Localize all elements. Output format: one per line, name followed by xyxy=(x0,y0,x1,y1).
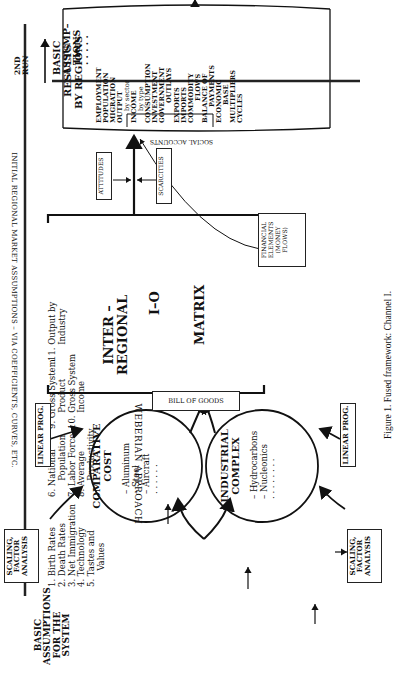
matrix-matrix-label: MATRIX xyxy=(192,285,207,345)
result-item: GOVERNMENT xyxy=(159,11,166,123)
matrix-line: REGIONAL xyxy=(116,295,130,375)
title-line: COST xyxy=(103,416,114,516)
title-line: COMPLEX xyxy=(231,416,242,516)
box-line: FLOWS) xyxy=(282,214,289,266)
label-line: RUN xyxy=(22,55,30,75)
linear-prog-box-left: LINEAR PROG. xyxy=(35,403,51,467)
social-accounts-text: SOCIAL ACCOUNTS xyxy=(150,139,213,146)
social-accounts-label: SOCIAL ACCOUNTS xyxy=(150,139,250,146)
financial-elements-box: FINANCIAL ELEMENTS (MONEY FLOWS) xyxy=(258,213,306,267)
title-line: COMPARATIVE xyxy=(92,416,103,516)
matrix-line: INTER – xyxy=(102,295,116,375)
industry-item: · · · · · · xyxy=(152,443,162,494)
assumption-group-1: 1. Birth Rates 2. Death Rates 3. Net Imm… xyxy=(48,504,107,587)
attitudes-box: ATTITUDES xyxy=(96,152,112,200)
matrix-title: INTER – REGIONAL xyxy=(102,295,129,375)
industrial-complex-title: INDUSTRIAL COMPLEX xyxy=(220,416,241,516)
interregional-io-matrix: INTER – REGIONAL I–O MATRIX xyxy=(52,223,262,385)
linear-prog-box-right: LINEAR PROG. xyxy=(340,403,356,467)
industry-item: – Aircraft xyxy=(141,443,151,494)
figure-caption: Figure 1. Fused framework: Channel I. xyxy=(383,291,393,439)
result-item: ECONOMIC xyxy=(216,11,223,123)
industry-item: – Hydrocarbons xyxy=(249,431,259,499)
title-line: INDUSTRIAL xyxy=(220,416,231,516)
second-run-label: 2ND RUN xyxy=(14,55,30,75)
result-item: COMMODITY xyxy=(188,11,195,123)
comparative-cost-title: COMPARATIVE COST xyxy=(92,416,113,516)
basic-assumptions-title: BASIC ASSUMPTIONS FOR THE SYSTEM xyxy=(34,605,72,665)
market-assumptions-banner: INITIAL REGIONAL MARKET ASSUMPTIONS – VI… xyxy=(10,24,18,596)
bill-of-goods-label: BILL OF GOODS xyxy=(168,398,223,405)
box-line: ANALYSIS xyxy=(21,530,28,582)
assumption-group-2: 6. National Population 7. Labor Force 8.… xyxy=(48,428,97,497)
assumption-item: Values xyxy=(97,504,107,587)
scaling-factor-analysis-box-right: SCALING, FACTOR ANALYSIS xyxy=(347,529,382,583)
scaling-factor-analysis-box-left: SCALING, FACTOR ANALYSIS xyxy=(4,529,39,583)
label-line: · · · · · xyxy=(82,23,92,75)
industry-item: – Steel xyxy=(131,443,141,494)
result-item: CYCLES xyxy=(237,11,244,123)
scarcities-box: SCARCITIES xyxy=(156,148,172,204)
bill-of-goods-box: BILL OF GOODS xyxy=(152,391,240,411)
matrix-io-label: I–O xyxy=(147,291,162,315)
comparative-cost-items: – Aluminum – Steel – Aircraft · · · · · … xyxy=(121,443,162,494)
results-items: EMPLOYMENT POPULATION MIGRATION OUTPUT b… xyxy=(96,11,244,123)
fused-framework-diagram: BASIC ASSUMPTIONS FOR THE SYSTEM 1. Birt… xyxy=(0,0,407,679)
industry-item: – Nucleonics xyxy=(259,431,269,499)
box-line: ANALYSIS xyxy=(364,530,371,582)
industrial-complex-items: – Hydrocarbons – Nucleonics · · · · · · … xyxy=(249,431,280,499)
second-run-basic-assumptions: BASIC ASSUMP– TIONS · · · · · xyxy=(52,23,92,75)
industry-item: – Aluminum xyxy=(121,443,131,494)
industry-item: · · · · · · · · xyxy=(269,431,279,499)
title-line: FOR THE SYSTEM xyxy=(53,605,72,665)
